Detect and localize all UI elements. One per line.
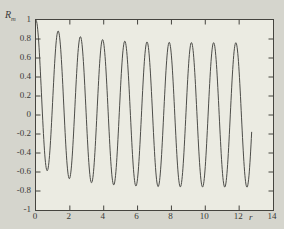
y-tick-label: -0.2 (0, 128, 31, 139)
waveform-svg (36, 20, 273, 210)
y-tick-label: 1 (0, 14, 31, 25)
x-tick-label: 14 (260, 211, 284, 222)
y-tick-label: 0.4 (0, 71, 31, 82)
waveform-curve (36, 20, 252, 187)
x-tick-label: 4 (91, 211, 115, 222)
y-tick-label: -0.6 (0, 166, 31, 177)
oscillating-correlation-figure: Rm r 10.80.60.40.20-0.2-0.4-0.6-0.8-1 02… (0, 0, 284, 229)
y-tick-label: 0.2 (0, 90, 31, 101)
x-tick-label: 0 (23, 211, 47, 222)
x-tick-label: 2 (57, 211, 81, 222)
x-tick-label: 12 (226, 211, 250, 222)
y-tick-label: 0.8 (0, 33, 31, 44)
x-tick-label: 6 (125, 211, 149, 222)
x-tick-label: 10 (192, 211, 216, 222)
x-tick-label: 8 (158, 211, 182, 222)
y-tick-label: 0.6 (0, 52, 31, 63)
y-tick-label: -0.4 (0, 147, 31, 158)
y-tick-label: 0 (0, 109, 31, 120)
plot-area (35, 19, 274, 211)
y-tick-label: -0.8 (0, 185, 31, 196)
